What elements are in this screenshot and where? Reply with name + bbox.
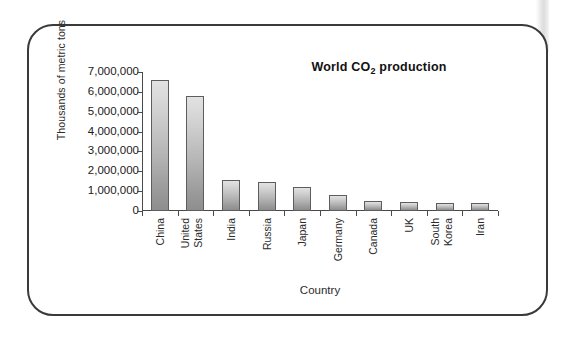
x-axis-tick-mark: [391, 211, 392, 216]
x-axis-category-label-line: United: [179, 218, 192, 284]
x-axis-category-label-line: India: [225, 218, 238, 284]
bar: [436, 203, 454, 211]
x-axis-tick-mark: [142, 211, 143, 216]
x-axis-category-label-line: South: [429, 218, 442, 284]
bar: [186, 96, 204, 211]
bar-chart: World CO2 production Thousands of metric…: [29, 26, 550, 318]
y-axis-tick-labels: 01,000,0002,000,0003,000,0004,000,0005,0…: [71, 66, 139, 216]
x-axis-category-label: India: [225, 218, 239, 284]
x-axis-category-label-line: States: [192, 218, 205, 284]
x-axis-tick-mark: [284, 211, 285, 216]
x-axis-category-label-line: Japan: [296, 218, 309, 284]
x-axis-category-label: UK: [403, 218, 417, 284]
x-axis-tick-mark: [498, 211, 499, 216]
y-axis-tick-label: 4,000,000: [71, 126, 139, 138]
x-axis-tick-mark: [213, 211, 214, 216]
x-axis-tick-mark: [356, 211, 357, 216]
bar: [151, 80, 169, 211]
x-axis-category-label-line: Korea: [442, 218, 455, 284]
y-axis-tick-label: 5,000,000: [71, 106, 139, 118]
x-axis-category-label-line: Germany: [332, 218, 345, 284]
x-axis-tick-mark: [178, 211, 179, 216]
x-axis-category-label-line: UK: [403, 218, 416, 284]
x-axis-category-label-line: Russia: [261, 218, 274, 284]
x-axis-tick-mark: [427, 211, 428, 216]
x-axis-title: Country: [142, 284, 498, 296]
bar: [258, 182, 276, 211]
x-axis-tick-mark: [320, 211, 321, 216]
y-axis-tick-label: 1,000,000: [71, 185, 139, 197]
x-axis-category-label: SouthKorea: [429, 218, 457, 284]
x-axis-category-label: Russia: [261, 218, 275, 284]
bars-group: [142, 72, 498, 211]
x-axis-category-label: Iran: [474, 218, 488, 284]
x-axis-category-label-line: China: [154, 218, 167, 284]
x-axis-category-labels: ChinaUnitedStatesIndiaRussiaJapanGermany…: [142, 218, 498, 284]
bar: [471, 203, 489, 211]
x-axis-tick-mark: [462, 211, 463, 216]
y-axis-tick-label: 2,000,000: [71, 165, 139, 177]
bar: [222, 180, 240, 211]
bar: [400, 202, 418, 211]
x-axis-category-label: Canada: [367, 218, 381, 284]
x-axis-category-label: Japan: [296, 218, 310, 284]
x-axis-category-label: Germany: [332, 218, 346, 284]
x-axis-category-label-line: Canada: [367, 218, 380, 284]
x-axis-category-label: UnitedStates: [179, 218, 207, 284]
y-axis-tick-label: 6,000,000: [71, 86, 139, 98]
bar: [329, 195, 347, 211]
y-axis-tick-label: 7,000,000: [71, 66, 139, 78]
y-axis-title: Thousands of metric tons: [55, 0, 67, 160]
figure-frame: World CO2 production Thousands of metric…: [27, 24, 548, 316]
y-axis-tick-label: 3,000,000: [71, 145, 139, 157]
bar: [293, 187, 311, 211]
bar: [364, 201, 382, 211]
x-axis-category-label-line: Iran: [474, 218, 487, 284]
x-axis-tick-mark: [249, 211, 250, 216]
x-axis-category-label: China: [154, 218, 168, 284]
y-axis-tick-label: 0: [71, 205, 139, 217]
